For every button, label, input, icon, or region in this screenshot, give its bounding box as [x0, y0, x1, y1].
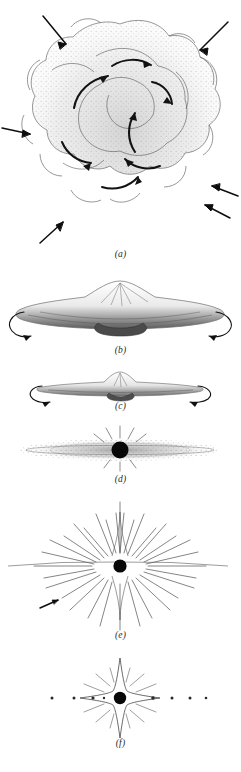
- cloud-body: [0, 0, 241, 250]
- panel-a-caption: (a): [0, 249, 241, 259]
- planet-3: [91, 696, 94, 699]
- outflow-indicator-arrow-e: [40, 600, 58, 608]
- planet-7: [189, 697, 192, 700]
- planet-8: [205, 697, 208, 700]
- panel-f-caption: (f): [0, 738, 241, 748]
- panel-d-caption: (d): [0, 474, 241, 484]
- star-core-f: [114, 692, 126, 704]
- protostar-core-d: [112, 442, 129, 459]
- panel-c-caption: (c): [0, 401, 241, 411]
- infall-arrow-right: [212, 184, 238, 196]
- infall-arrow-left: [2, 128, 30, 137]
- protostar-core-e: [113, 559, 126, 572]
- panel-a-collapsing-cloud: [0, 0, 241, 250]
- infall-arrow-top-right: [200, 22, 228, 55]
- planet-5: [151, 696, 155, 700]
- panel-b-caption: (b): [0, 345, 241, 355]
- panel-e-caption: (e): [0, 630, 241, 640]
- planet-4: [103, 697, 105, 699]
- panel-b-flattening-disk: [0, 272, 241, 344]
- planet-6: [171, 697, 174, 700]
- infall-arrow-bottom-left: [40, 222, 63, 243]
- infall-arrow-bottom-right: [205, 205, 230, 218]
- panel-d-protostar-disk: [0, 424, 241, 476]
- disk-body-b: [16, 281, 224, 336]
- swirl-arrow-7: [102, 177, 142, 189]
- planet-1: [51, 697, 54, 700]
- planet-2: [73, 697, 76, 700]
- figure-root: (a): [0, 0, 241, 772]
- panel-e-t-tauri-outflow: [0, 496, 241, 632]
